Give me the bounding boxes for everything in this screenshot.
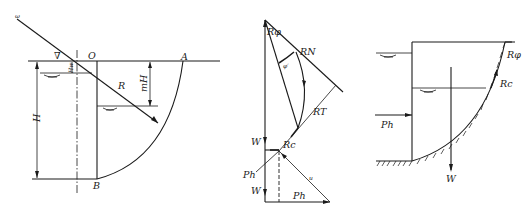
label-r-phi: Rφ — [266, 26, 281, 37]
label-b: B — [92, 180, 100, 191]
label-hw: Hw — [67, 62, 74, 74]
arc-arrow — [302, 80, 306, 87]
label-r: R — [117, 80, 125, 91]
label-ph-right: Ph — [380, 119, 394, 130]
middle-figure: Rφ RN φ′ RT Rc W W Ph Ph u — [242, 20, 343, 204]
ph-diagonal-line — [256, 151, 279, 172]
slip-hatching — [417, 43, 505, 164]
inner-water-symbol — [103, 108, 117, 110]
label-ph-left: Ph — [242, 169, 256, 180]
label-a: A — [180, 51, 188, 62]
label-h-group: H — [31, 113, 42, 123]
radius-arrowhead — [151, 116, 158, 123]
label-phi-prime: φ′ — [283, 62, 289, 70]
label-w-bottom: W — [251, 185, 262, 196]
mh-arrow-bottom — [148, 100, 152, 106]
label-r-phi-right: Rφ — [506, 49, 521, 60]
w-bottom-arrow — [263, 189, 267, 196]
label-u: u — [309, 174, 313, 181]
label-hw-group: Hw — [67, 62, 74, 74]
label-o: O — [88, 50, 96, 61]
label-mh-group: mH — [138, 74, 149, 92]
phi-arc — [296, 52, 305, 128]
label-rc: Rc — [282, 139, 296, 150]
rc-segment — [291, 128, 298, 137]
block-slip-curve — [412, 42, 505, 161]
label-rc-right: Rc — [499, 78, 513, 89]
label-w-top: W — [251, 136, 262, 147]
left-figure: ω O A B R ∇ H mH Hw — [15, 12, 220, 194]
outer-water-symbol-right — [380, 55, 396, 57]
right-figure: Rφ Rc Ph W — [375, 42, 521, 184]
label-h: H — [31, 113, 42, 123]
label-omega: ω — [15, 12, 20, 19]
label-water-symbol: ∇ — [54, 50, 61, 61]
label-rn: RN — [299, 46, 316, 57]
label-w-right: W — [446, 173, 457, 184]
ph-force-arrow — [405, 113, 412, 117]
label-ph-bottom: Ph — [292, 190, 306, 201]
h-arrow-top — [35, 62, 39, 69]
label-mh: mH — [138, 74, 149, 92]
outer-water-symbol — [44, 75, 60, 77]
w-top-arrow — [263, 137, 267, 144]
radius-line — [17, 19, 158, 123]
bottom-hatching — [377, 161, 412, 166]
label-rt: RT — [312, 106, 327, 117]
diagram-canvas: ω O A B R ∇ H mH Hw — [0, 0, 526, 217]
diagram-svg: ω O A B R ∇ H mH Hw — [0, 0, 526, 217]
inner-water-symbol-right — [420, 90, 436, 92]
h-arrow-bottom — [35, 171, 39, 178]
mh-arrow-top — [148, 62, 152, 68]
w-force-arrow — [449, 164, 453, 172]
